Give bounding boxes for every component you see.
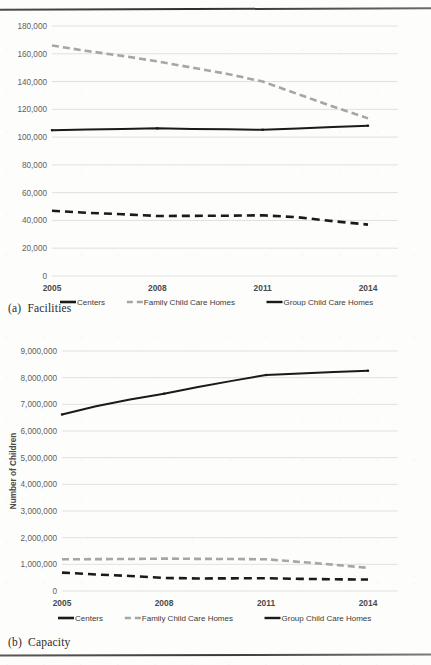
x-axis-tick-label: 2008 [155,598,174,608]
y-axis-tick-label: 120,000 [17,105,47,114]
data-point-marker [262,129,264,131]
x-axis-tick-label: 2011 [254,283,273,293]
legend-item: Centers [58,614,103,623]
figure-a-caption-label: (a) [8,302,21,314]
data-point-marker [156,127,158,129]
figure-b-caption-label: (b) [8,636,22,648]
data-point-marker [367,370,369,372]
y-axis-tick-label: 6,000,000 [21,427,58,436]
data-series-line [62,559,368,568]
figure-a-caption-text: Facilities [27,302,71,314]
legend-label: Centers [77,298,105,306]
y-axis-title: Number of Children [9,433,18,509]
figure-b-capacity: 9,000,0008,000,0007,000,0006,000,0005,00… [0,330,431,630]
y-axis-tick-label: 80,000 [22,161,47,170]
y-axis-tick-label: 3,000,000 [21,507,58,516]
y-axis-tick-label: 60,000 [22,189,47,198]
y-axis-tick-label: 7,000,000 [21,400,58,409]
legend-label: Group Child Care Homes [282,614,372,623]
legend-label: Group Child Care Homes [284,298,374,306]
figure-b-caption-text: Capacity [28,636,70,648]
capacity-line-chart-svg: 9,000,0008,000,0007,000,0006,000,0005,00… [0,330,431,630]
x-axis-tick-label: 2011 [257,598,276,608]
y-axis-tick-label: 180,000 [17,22,47,31]
legend-label: Centers [75,614,103,623]
y-axis-tick-label: 1,000,000 [21,560,58,569]
y-axis-tick-label: 8,000,000 [21,374,58,383]
y-axis-tick-label: 9,000,000 [21,347,58,356]
data-point-marker [163,393,165,395]
data-point-marker [61,413,63,415]
top-horizontal-rule [0,7,431,10]
x-axis-tick-label: 2014 [359,598,378,608]
figure-a-caption: (a)Facilities [8,302,72,314]
data-point-marker [367,125,369,127]
y-axis-tick-label: 4,000,000 [21,480,58,489]
legend-label: Family Child Care Homes [144,298,235,306]
data-series-line [52,126,368,130]
y-axis-tick-label: 140,000 [17,78,47,87]
x-axis-tick-label: 2008 [148,283,167,293]
legend-item: Family Child Care Homes [125,614,233,623]
legend-item: Family Child Care Homes [127,298,235,306]
figure-b-caption: (b)Capacity [8,636,71,648]
x-axis-tick-label: 2005 [53,598,72,608]
x-axis-tick-label: 2014 [359,283,378,293]
y-axis-tick-label: 5,000,000 [21,454,58,463]
data-series-line [52,211,368,225]
data-point-marker [265,374,267,376]
y-axis-tick-label: 100,000 [17,133,47,142]
y-axis-tick-label: 0 [52,587,57,596]
data-series-line [62,573,368,580]
figure-a-facilities: 180,000160,000140,000120,000100,00080,00… [0,14,431,306]
chart-capacity: 9,000,0008,000,0007,000,0006,000,0005,00… [0,330,431,630]
y-axis-tick-label: 40,000 [22,216,47,225]
chart-facilities: 180,000160,000140,000120,000100,00080,00… [0,14,431,306]
legend-label: Family Child Care Homes [142,614,233,623]
facilities-line-chart-svg: 180,000160,000140,000120,000100,00080,00… [0,14,431,306]
legend-item: Group Child Care Homes [267,298,374,306]
y-axis-tick-label: 160,000 [17,50,47,59]
x-axis-tick-label: 2005 [43,283,62,293]
figure-page: 180,000160,000140,000120,000100,00080,00… [0,0,431,665]
y-axis-tick-label: 20,000 [22,244,47,253]
data-point-marker [51,129,53,131]
bottom-horizontal-rule [0,654,431,656]
y-axis-tick-label: 2,000,000 [21,534,58,543]
legend-item: Group Child Care Homes [265,614,372,623]
y-axis-tick-label: 0 [42,272,47,281]
